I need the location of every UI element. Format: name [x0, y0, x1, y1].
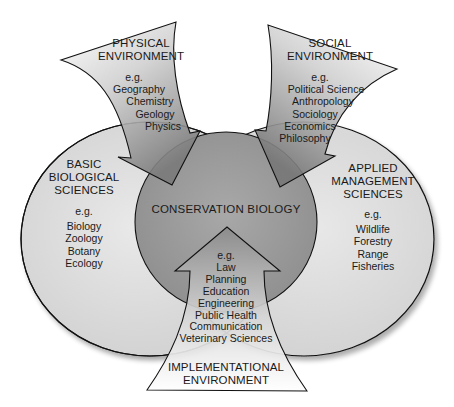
- item-planning: Planning: [166, 274, 286, 286]
- item-biology: Biology: [44, 220, 124, 233]
- social-item-anthropology: Anthropology: [278, 95, 368, 107]
- item-education: Education: [166, 286, 286, 298]
- title-line: BASIC: [34, 158, 134, 171]
- basic-biological-sciences-title: BASIC BIOLOGICAL SCIENCES: [34, 158, 134, 198]
- title-line: PHYSICAL: [76, 37, 206, 50]
- social-item-sociology: Sociology: [270, 108, 360, 120]
- title-line: SOCIAL: [275, 37, 385, 50]
- item-veterinary-sciences: Veterinary Sciences: [166, 333, 286, 345]
- conservation-biology-label: CONSERVATION BIOLOGY: [146, 203, 306, 216]
- title-line: IMPLEMENTATIONAL: [156, 361, 296, 374]
- item-forestry: Forestry: [333, 235, 413, 248]
- title-line: SCIENCES: [318, 188, 428, 201]
- item-zoology: Zoology: [44, 232, 124, 245]
- item-wildlife: Wildlife: [333, 223, 413, 236]
- title-line: ENVIRONMENT: [275, 50, 385, 63]
- implementational-list: e.g. Law Planning Education Engineering …: [166, 250, 286, 345]
- social-environment-eg: e.g.: [300, 71, 340, 83]
- social-item-political-science: Political Science: [276, 83, 376, 95]
- physical-environment-title: PHYSICAL ENVIRONMENT: [76, 37, 206, 63]
- title-line: SCIENCES: [34, 184, 134, 197]
- physical-item-chemistry: Chemistry: [115, 95, 185, 107]
- title-line: MANAGEMENT: [318, 175, 428, 188]
- item-ecology: Ecology: [44, 257, 124, 270]
- title-line: ENVIRONMENT: [76, 50, 206, 63]
- social-item-philosophy: Philosophy: [260, 132, 350, 144]
- physical-environment-eg: e.g.: [114, 71, 154, 83]
- physical-item-geology: Geology: [120, 108, 190, 120]
- social-environment-title: SOCIAL ENVIRONMENT: [275, 37, 385, 63]
- physical-item-geography: Geography: [104, 83, 174, 95]
- eg-label: e.g.: [333, 208, 413, 221]
- title-line: BIOLOGICAL: [34, 171, 134, 184]
- title-line: APPLIED: [318, 162, 428, 175]
- social-item-economics: Economics: [265, 120, 355, 132]
- applied-management-sciences-list: e.g. Wildlife Forestry Range Fisheries: [333, 208, 413, 273]
- item-engineering: Engineering: [166, 298, 286, 310]
- basic-biological-sciences-list: e.g. Biology Zoology Botany Ecology: [44, 205, 124, 270]
- item-fisheries: Fisheries: [333, 260, 413, 273]
- implementational-environment-title: IMPLEMENTATIONAL ENVIRONMENT: [156, 361, 296, 387]
- applied-management-sciences-title: APPLIED MANAGEMENT SCIENCES: [318, 162, 428, 202]
- eg-label: e.g.: [44, 205, 124, 218]
- item-botany: Botany: [44, 245, 124, 258]
- item-range: Range: [333, 248, 413, 261]
- title-line: ENVIRONMENT: [156, 374, 296, 387]
- physical-item-physics: Physics: [128, 120, 198, 132]
